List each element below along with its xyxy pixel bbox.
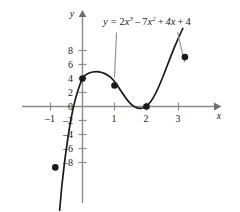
x-tick-label-1: 1 <box>112 113 117 124</box>
equation-operator-2: + <box>158 16 164 27</box>
y-tick-label-4: 4 <box>68 73 73 84</box>
equation-term1-exponent: 3 <box>129 15 134 23</box>
cubic-function-graph: –1 1 2 3 8 6 4 2 0 –2 –4 –6 –8 y x y=2x3… <box>0 0 240 211</box>
data-point-marker <box>143 103 150 110</box>
equation-annotation: y=2x3–7x2+4x+4 <box>102 15 191 27</box>
y-tick-label-6: 6 <box>68 59 73 70</box>
equation-leader-line <box>115 33 117 78</box>
y-axis-label: y <box>69 8 75 19</box>
data-point-marker <box>111 82 118 89</box>
function-curve <box>60 29 183 212</box>
x-tick-label-2: 2 <box>144 113 149 124</box>
axes-group <box>22 10 222 203</box>
equation-term3: 4x <box>166 16 176 27</box>
annotation-leader-lines <box>115 32 185 78</box>
equation-lhs: y <box>102 16 108 27</box>
y-tick-label-8: 8 <box>68 45 73 56</box>
figure-container: –1 1 2 3 8 6 4 2 0 –2 –4 –6 –8 y x y=2x3… <box>0 0 240 211</box>
x-axis-label: x <box>216 110 222 121</box>
data-point-marker <box>79 75 86 82</box>
x-tick-label-3: 3 <box>176 113 181 124</box>
data-point-marker <box>52 164 59 171</box>
equation-operator-1: – <box>134 16 141 27</box>
equation-operator-3: + <box>178 16 184 27</box>
equation-equals: = <box>111 16 117 27</box>
y-tick-label-2: 2 <box>68 87 73 98</box>
equation-term2-exponent: 2 <box>152 15 156 23</box>
y-axis-arrowhead <box>79 10 87 17</box>
equation-term4: 4 <box>185 16 191 27</box>
data-point-marker <box>182 54 189 61</box>
x-tick-label--1: –1 <box>44 113 55 124</box>
